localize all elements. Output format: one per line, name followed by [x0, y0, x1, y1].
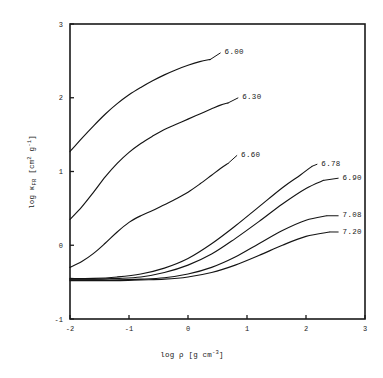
leader-line-6.30 [228, 98, 238, 103]
axis-ticks [70, 24, 365, 319]
curve-label-6.78: 6.78 [321, 160, 340, 168]
x-tick-label: -2 [66, 325, 74, 333]
curve-label-6.60: 6.60 [241, 151, 260, 159]
x-title-units: [g cm [184, 351, 213, 359]
opacity-figure: -2-10123 -10123 6.006.306.606.786.907.08… [0, 0, 383, 378]
curve-6.90 [70, 180, 324, 279]
curve-6.60 [70, 163, 228, 267]
data-curves [70, 53, 339, 281]
x-tick-label: 0 [186, 325, 190, 333]
y-title-close: ] [28, 135, 36, 140]
svg-text:log κFR [cm2 g-1]: log κFR [cm2 g-1] [26, 135, 38, 209]
curve-label-7.20: 7.20 [343, 228, 362, 236]
y-tick-label: 1 [59, 168, 63, 176]
curve-6.30 [70, 103, 228, 220]
x-tick-label: 1 [245, 325, 249, 333]
x-tick-label: -1 [125, 325, 133, 333]
curve-6.78 [70, 166, 312, 278]
plot-frame [70, 24, 365, 319]
y-tick-label: -1 [55, 316, 63, 324]
y-tick-label: 0 [59, 242, 63, 250]
curve-6.00 [70, 59, 210, 151]
y-title-prefix: log [28, 190, 36, 209]
y-axis-title: log κFR [cm2 g-1] [26, 135, 38, 209]
curve-label-6.30: 6.30 [242, 93, 261, 101]
curve-7.08 [70, 216, 327, 280]
x-title-prefix: log [160, 351, 179, 359]
leader-line-6.78 [312, 164, 317, 166]
x-axis-title: log ρ [g cm-3] [160, 349, 223, 359]
curve-label-6.00: 6.00 [225, 48, 244, 56]
curve-labels: 6.006.306.606.786.907.087.20 [225, 48, 362, 235]
y-tick-label: 3 [59, 21, 63, 29]
x-title-close: ] [219, 351, 224, 359]
x-title-exponent: -3 [212, 349, 219, 356]
svg-text:log ρ [g cm-3]: log ρ [g cm-3] [160, 349, 223, 359]
leader-line-6.60 [228, 155, 237, 163]
leader-line-6.90 [324, 178, 339, 180]
x-tick-label: 3 [363, 325, 367, 333]
y-axis-tick-labels: -10123 [55, 21, 63, 324]
curve-label-7.08: 7.08 [343, 211, 362, 219]
plot-canvas: -2-10123 -10123 6.006.306.606.786.907.08… [0, 0, 383, 378]
y-title-units-mid: g [28, 147, 36, 156]
y-title-units: [cm [28, 159, 36, 178]
x-axis-tick-labels: -2-10123 [66, 325, 367, 333]
y-tick-label: 2 [59, 94, 63, 102]
axes-box [70, 24, 365, 319]
curve-label-6.90: 6.90 [343, 174, 362, 182]
leader-line-6.00 [210, 53, 220, 60]
x-tick-label: 2 [304, 325, 308, 333]
